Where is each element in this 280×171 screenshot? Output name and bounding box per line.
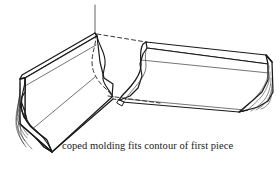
figure-caption: coped molding fits contour of first piec… <box>62 139 272 152</box>
figure-canvas: coped molding fits contour of first piec… <box>0 0 280 171</box>
